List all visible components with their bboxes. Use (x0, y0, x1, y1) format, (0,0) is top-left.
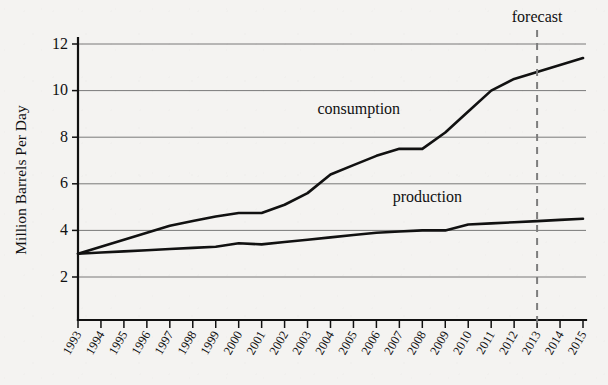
y-axis-title: Million Barrels Per Day (12, 105, 29, 255)
x-tick-label: 2011 (473, 329, 497, 357)
x-tick-label: 2001 (244, 329, 269, 358)
x-tick-label: 1999 (198, 329, 223, 358)
x-tick-label: 2006 (358, 329, 383, 358)
x-tick-label: 1998 (175, 329, 200, 358)
y-tick-label: 10 (52, 81, 68, 98)
production-line (78, 219, 583, 254)
x-tick-label: 1996 (129, 329, 154, 358)
x-axis-ticks (78, 320, 583, 328)
x-tick-label: 2002 (267, 329, 292, 358)
x-tick-label: 1993 (60, 329, 85, 358)
x-tick-label: 2003 (290, 329, 315, 358)
x-tick-label: 1995 (106, 329, 131, 358)
x-tick-label: 1997 (152, 329, 177, 358)
y-tick-label: 12 (52, 35, 68, 52)
forecast-label: forecast (512, 8, 563, 25)
x-tick-label: 2010 (450, 329, 475, 358)
consumption-line (78, 58, 583, 254)
x-tick-label: 2012 (496, 329, 521, 358)
x-tick-label: 2014 (542, 328, 567, 357)
x-tick-label: 2009 (427, 329, 452, 358)
x-tick-label: 2004 (312, 328, 337, 357)
x-tick-label: 2007 (381, 329, 406, 358)
y-tick-label: 4 (60, 221, 68, 238)
x-tick-label: 2005 (335, 329, 360, 358)
consumption-label: consumption (317, 100, 400, 118)
y-tick-label: 2 (60, 268, 68, 285)
x-axis-tick-labels: 1993199419951996199719981999200020012002… (60, 328, 590, 357)
chart-canvas: 24681012 1993199419951996199719981999200… (0, 0, 608, 385)
line-chart: 24681012 1993199419951996199719981999200… (0, 0, 608, 385)
x-tick-label: 2008 (404, 329, 429, 358)
y-axis-tick-labels: 24681012 (52, 35, 68, 285)
production-label: production (393, 188, 462, 206)
gridlines (78, 44, 586, 277)
x-tick-label: 2013 (519, 329, 544, 358)
x-tick-label: 2000 (221, 329, 246, 358)
y-tick-label: 6 (60, 174, 68, 191)
x-tick-label: 1994 (83, 328, 108, 357)
x-tick-label: 2015 (565, 329, 590, 358)
y-tick-label: 8 (60, 128, 68, 145)
